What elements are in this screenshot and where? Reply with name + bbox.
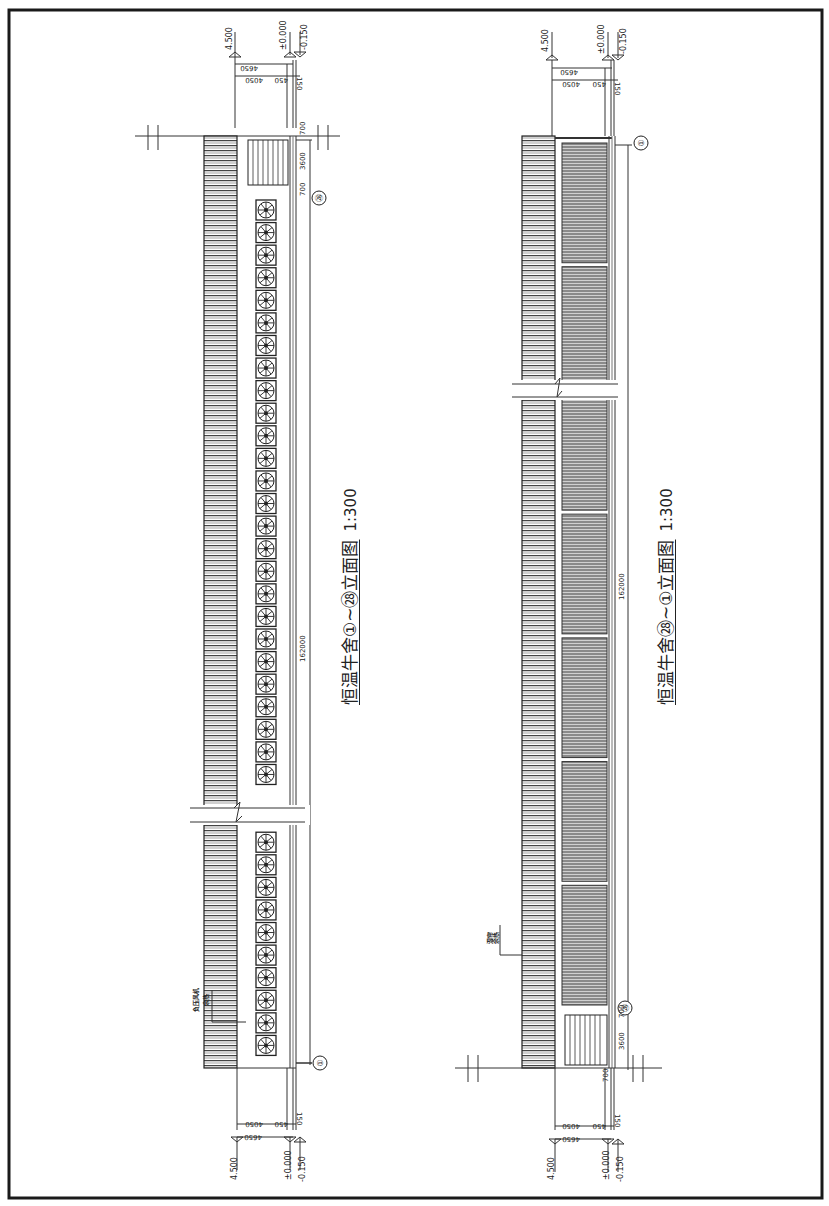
exhaust-fan-icon [256, 832, 276, 852]
exhaust-fan-icon [256, 584, 276, 604]
exhaust-fan-icon [256, 426, 276, 446]
exhaust-fan-icon [256, 200, 276, 220]
exhaust-fan-icon [256, 877, 276, 897]
title-left-text: 恒温牛舍①~㉘立面图 [340, 540, 360, 705]
end-dim-bottom: 700 [299, 183, 307, 196]
dim-middle-bottom: 450 [275, 1120, 288, 1128]
dim-upper-top: 4050 [245, 76, 263, 84]
end-door-right [565, 1015, 607, 1065]
exhaust-fan-icon [256, 358, 276, 378]
dim-base-bottom: 150 [295, 1112, 303, 1125]
exhaust-fan-icon [256, 539, 276, 559]
svg-text:①: ① [637, 139, 646, 146]
exhaust-fan-icon [256, 968, 276, 988]
level-eave-bottom: 4.500 [230, 1157, 239, 1180]
roof-panel-right [522, 136, 555, 1068]
svg-text:余热: 余热 [202, 994, 210, 1007]
end-dim-door: 3600 [299, 152, 307, 170]
wet-curtain-panel [562, 762, 607, 882]
exhaust-fan-icon [256, 561, 276, 581]
elevation-right: 4.500 ±0.000 -0.150 4650 4050 450 150 ① … [455, 24, 662, 1182]
dim-upper-top-right: 4050 [562, 80, 580, 88]
dim-upper-bottom: 4050 [245, 1120, 263, 1128]
svg-text:①: ① [316, 1059, 325, 1066]
level-floor-top-right: ±0.000 [597, 24, 606, 54]
dim-upper-bottom-right: 4050 [562, 1122, 580, 1130]
exhaust-fan-icon [256, 697, 276, 717]
wet-curtain-panel [562, 390, 607, 510]
dim-total-top: 4650 [240, 64, 258, 72]
axis-bubble-1-right: ① [634, 136, 648, 150]
dim-middle-bottom-right: 450 [593, 1122, 606, 1130]
exhaust-fan-icon [256, 945, 276, 965]
end-dim-bottom-right: 700 [602, 1069, 610, 1082]
exhaust-fan-icon [256, 268, 276, 288]
sheet-border [9, 10, 822, 1198]
exhaust-fan-icon [256, 742, 276, 762]
dim-middle-top-right: 450 [593, 80, 606, 88]
svg-text:负压风机: 负压风机 [192, 988, 200, 1012]
exhaust-fan-icon [256, 900, 276, 920]
break-line-left [180, 802, 310, 825]
wet-curtain-panel [562, 514, 607, 634]
exhaust-fan-icon [256, 335, 276, 355]
exhaust-fan-icon [256, 674, 276, 694]
exhaust-fan-icon [256, 471, 276, 491]
wet-curtain-panels [562, 143, 607, 1005]
level-eave-top-right: 4.500 [541, 29, 550, 52]
exhaust-fan-icon [256, 290, 276, 310]
level-floor-top: ±0.000 [279, 20, 288, 50]
exhaust-fan-icon [256, 606, 276, 626]
exhaust-fan-icon [256, 516, 276, 536]
dim-base-top-right: 150 [613, 82, 621, 95]
exhaust-fan-icon [256, 448, 276, 468]
exhaust-fan-icon [256, 629, 276, 649]
exhaust-fan-icon [256, 245, 276, 265]
dim-middle-top: 450 [275, 76, 288, 84]
level-ground-bottom: -0.150 [298, 1156, 307, 1182]
exhaust-fan-icon [256, 923, 276, 943]
axis-bubble-28-left: ㉘ [312, 191, 326, 205]
axis-line-bottom-right [455, 1055, 662, 1172]
exhaust-fan-icon [256, 223, 276, 243]
wet-curtain-panel [562, 638, 607, 758]
svg-text:余热: 余热 [492, 932, 500, 945]
axis-line-bottom [231, 1068, 306, 1170]
svg-text:㉘: ㉘ [315, 194, 324, 202]
level-ground-top-right: -0.150 [619, 28, 628, 54]
exhaust-fan-icon [256, 652, 276, 672]
exhaust-fan-icon [256, 990, 276, 1010]
title-right-text: 恒温牛舍㉘~①立面图 [656, 540, 676, 705]
wet-curtain-panel [562, 267, 607, 387]
exhaust-fan-icon [256, 403, 276, 423]
drawing-sheet: 4.500 ±0.000 -0.150 4650 4050 450 150 [0, 0, 829, 1206]
elevation-left: 4.500 ±0.000 -0.150 4650 4050 450 150 [135, 20, 340, 1182]
title-left-scale: 1:300 [342, 488, 360, 531]
dim-total-bottom: 4650 [244, 1133, 262, 1141]
level-eave-top: 4.500 [225, 27, 234, 50]
end-dim-door-right: 3600 [618, 1032, 626, 1050]
title-left: 恒温牛舍①~㉘立面图1:300 [336, 488, 361, 705]
level-floor-bottom-right: ±0.000 [602, 1150, 611, 1180]
exhaust-fan-icon [256, 719, 276, 739]
break-line-right [505, 378, 625, 400]
exhaust-fan-icon [256, 1013, 276, 1033]
dim-base-bottom-right: 150 [613, 1114, 621, 1127]
end-dim-top: 700 [299, 122, 307, 135]
axis-bubble-1-left: ① [296, 1056, 327, 1070]
title-right: 恒温牛舍㉘~①立面图1:300 [652, 488, 677, 705]
exhaust-fans [256, 200, 276, 1055]
level-ground-bottom-right: -0.150 [616, 1156, 625, 1182]
end-dim-top-right: 700 [618, 1005, 626, 1018]
curtain-annotation: 湿帘 余热 [486, 925, 522, 955]
exhaust-fan-icon [256, 494, 276, 514]
overall-length-left: 162000 [299, 635, 307, 662]
title-right-scale: 1:300 [658, 488, 676, 531]
overall-length-right: 162000 [618, 573, 626, 600]
level-ground-top: -0.150 [300, 24, 309, 50]
roof-panel [204, 136, 237, 1068]
wet-curtain-panel [562, 143, 607, 263]
dim-total-top-right: 4650 [560, 68, 578, 76]
exhaust-fan-icon [256, 1035, 276, 1055]
level-floor-bottom: ±0.000 [284, 1150, 293, 1180]
